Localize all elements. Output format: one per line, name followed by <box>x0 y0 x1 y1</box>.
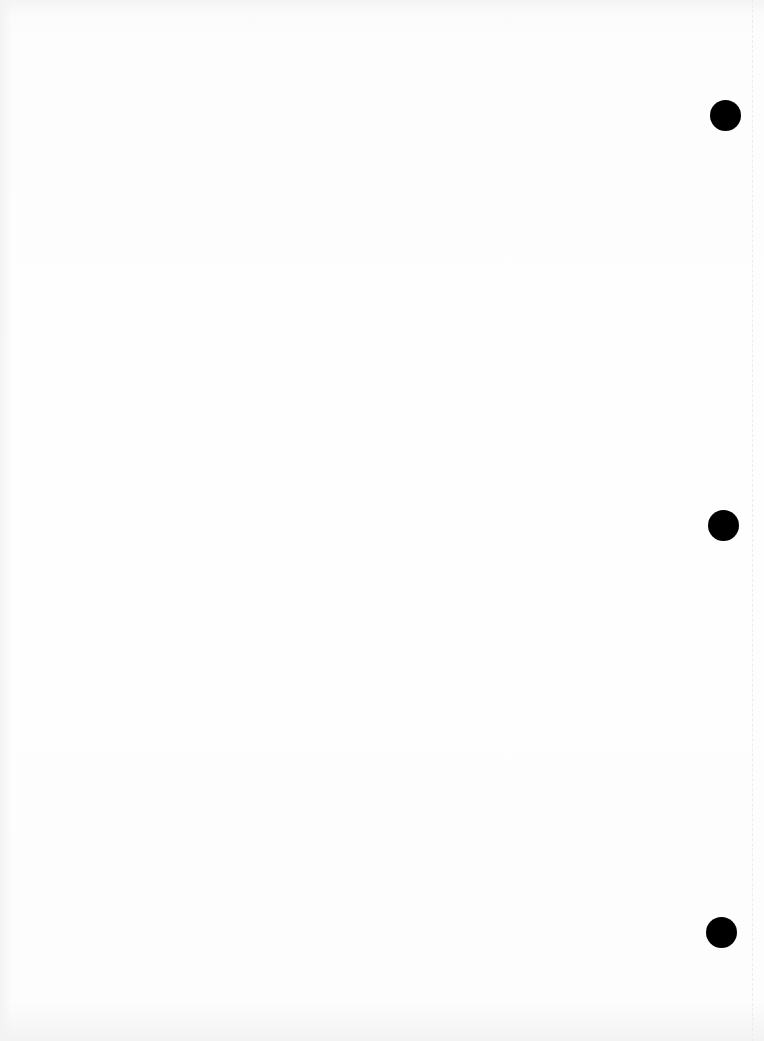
punch-hole-bottom <box>706 917 737 948</box>
blank-page <box>0 0 764 1041</box>
punch-hole-middle <box>708 510 739 541</box>
perforation-line <box>752 0 753 1041</box>
edge-shadow <box>0 0 12 1041</box>
punch-hole-top <box>710 100 741 131</box>
